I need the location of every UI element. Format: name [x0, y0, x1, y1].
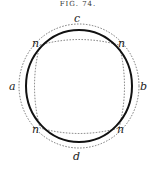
label-n-bottom-left: n — [32, 123, 39, 136]
label-n-top-left: n — [32, 37, 39, 50]
label-a: a — [9, 80, 16, 93]
circle-diagram: c a b d n n n n — [0, 0, 156, 169]
inner-dotted-curve — [35, 40, 125, 134]
label-n-top-right: n — [118, 37, 125, 50]
label-b: b — [140, 80, 147, 93]
label-n-bottom-right: n — [117, 123, 124, 136]
label-d: d — [73, 150, 80, 163]
label-c: c — [74, 12, 80, 25]
